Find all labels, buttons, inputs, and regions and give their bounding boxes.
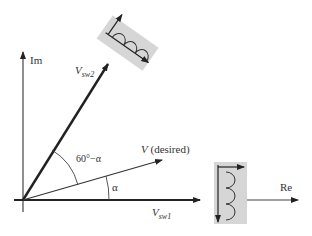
vsw2-label: Vsw2 (75, 64, 94, 79)
phasor-diagram: Im Re Vsw2 V (desired) Vsw1 α 60°−α (0, 0, 312, 236)
alpha-label: α (112, 181, 118, 193)
alpha-arc (106, 176, 109, 200)
sixty-minus-alpha-arc (52, 150, 78, 185)
im-axis-label: Im (30, 54, 43, 66)
vdesired-label: V (desired) (141, 143, 190, 156)
inductor-sw1 (214, 162, 247, 224)
inductor-sw2 (97, 11, 162, 71)
sixty-minus-alpha-label: 60°−α (76, 153, 102, 164)
vsw1-label: Vsw1 (152, 206, 171, 221)
re-axis-label: Re (280, 181, 292, 193)
